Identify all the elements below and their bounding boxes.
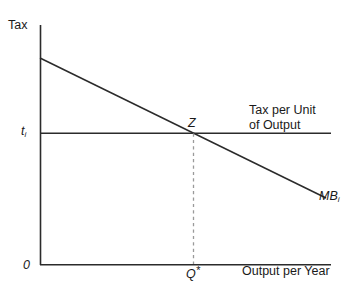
- tax-per-unit-annotation: Tax per Unitof Output: [249, 103, 316, 133]
- x-tick-base: Q: [186, 267, 196, 281]
- economics-diagram: Tax Output per Year 0 ti Q* Z MBi Tax pe…: [0, 0, 350, 293]
- tax-annotation-line-2: of Output: [249, 118, 300, 132]
- x-axis-tick-label-q-star: Q*: [186, 264, 200, 282]
- origin-label: 0: [23, 258, 30, 273]
- y-axis-title: Tax: [8, 18, 27, 33]
- x-axis-title: Output per Year: [242, 264, 330, 279]
- mb-label-subscript: i: [338, 195, 340, 204]
- intersection-point-label-z: Z: [188, 116, 196, 131]
- diagram-canvas: [0, 0, 350, 293]
- mb-label-base: MB: [319, 189, 338, 203]
- marginal-benefit-curve-label: MBi: [319, 189, 340, 204]
- x-tick-superscript: *: [196, 264, 200, 276]
- y-axis-tick-label-t: ti: [21, 124, 26, 139]
- tax-annotation-line-1: Tax per Unit: [249, 103, 316, 117]
- y-tick-subscript: i: [24, 130, 26, 139]
